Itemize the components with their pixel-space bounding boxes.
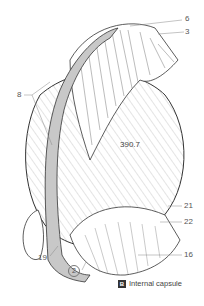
label-21: 21 [184, 202, 193, 210]
internal-capsule-illustration [0, 0, 204, 306]
caption-text: Internal capsule [129, 279, 182, 288]
label-2-circled: 2 [68, 265, 80, 277]
label-16: 16 [184, 251, 193, 259]
center-value: 390.7 [120, 140, 140, 149]
label-19: 19 [38, 254, 47, 262]
figure-caption: B Internal capsule [118, 279, 182, 288]
label-22: 22 [184, 218, 193, 226]
label-6: 6 [185, 15, 189, 23]
label-3: 3 [185, 28, 189, 36]
caption-badge: B [118, 280, 126, 288]
label-8: 8 [17, 91, 21, 99]
